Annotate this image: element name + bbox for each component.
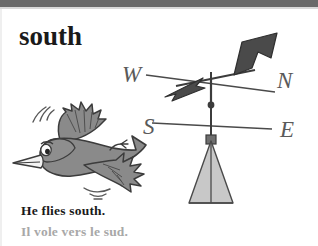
vane-arrow-head	[165, 78, 205, 101]
caption-english: He flies south.	[21, 203, 105, 219]
compass-letter-w: W	[122, 62, 143, 87]
weather-vane-icon: W N S E	[122, 33, 294, 203]
motion-lines-icon	[33, 107, 54, 122]
compass-letter-e: E	[279, 117, 294, 142]
bird-beak	[13, 155, 43, 168]
flying-bird-icon	[13, 102, 146, 199]
caption-french: Il vole vers le sud.	[21, 224, 128, 240]
compass-letter-s: S	[143, 114, 155, 139]
bird-upper-wing	[58, 102, 106, 141]
vane-tail-fin	[234, 33, 277, 75]
compass-letter-n: N	[276, 68, 294, 93]
bird-speed-lines-icon	[84, 188, 110, 199]
flashcard-page: south	[0, 0, 318, 246]
